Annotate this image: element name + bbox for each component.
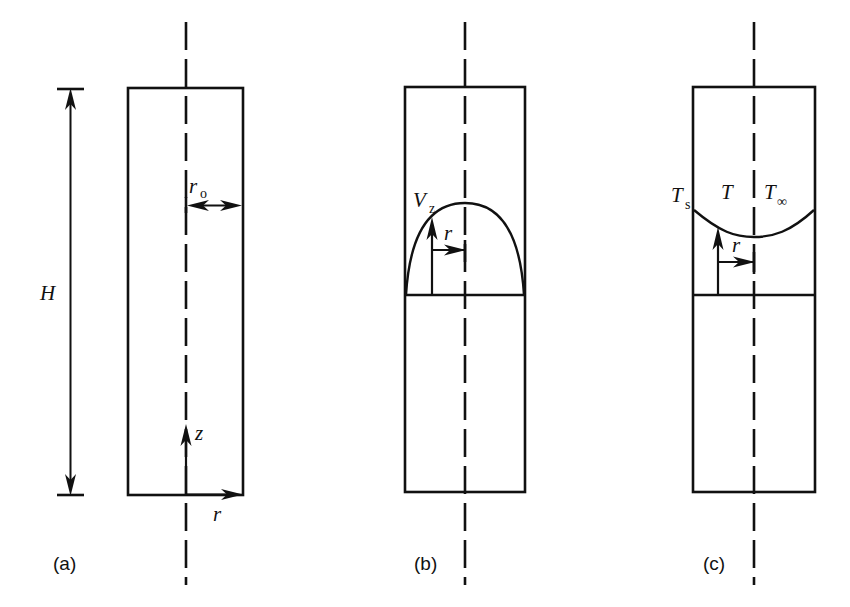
radial-vector-b: r (433, 221, 467, 262)
radial-label-b: r (444, 221, 453, 245)
radial-vector-c: r (719, 233, 756, 274)
panel-caption-b: (b) (414, 553, 437, 574)
height-dimension: H (39, 88, 84, 496)
velocity-label: V (413, 188, 428, 212)
radius-dimension: r o (186, 174, 242, 213)
radius-label: r (189, 174, 198, 198)
temperature-vector-c (713, 227, 724, 294)
panel-c: r T s T T ∞ (c) (671, 22, 815, 585)
axial-axis-label: z (194, 421, 203, 445)
height-label: H (39, 281, 57, 305)
panel-caption-a: (a) (53, 553, 76, 574)
surface-temperature-subscript: s (685, 197, 690, 212)
radial-axis-a: r (186, 489, 243, 526)
radial-label-c: r (732, 233, 741, 257)
temperature-label: T (721, 180, 734, 204)
radius-subscript-label: o (200, 186, 207, 201)
bulk-temperature-label: T (764, 180, 777, 204)
velocity-subscript-label: z (429, 201, 435, 216)
temperature-labels: T s T T ∞ (671, 180, 787, 212)
figure-root: H r o z r (a) (0, 0, 850, 607)
tube-flow-diagram: H r o z r (a) (0, 0, 850, 607)
panel-caption-c: (c) (703, 553, 725, 574)
radial-axis-label: r (213, 502, 222, 526)
panel-a: H r o z r (a) (39, 22, 243, 585)
panel-b: V z r (b) (405, 22, 525, 585)
surface-temperature-label: T (671, 183, 684, 207)
bulk-temperature-subscript: ∞ (777, 194, 787, 209)
axial-axis-a: z (181, 421, 204, 494)
